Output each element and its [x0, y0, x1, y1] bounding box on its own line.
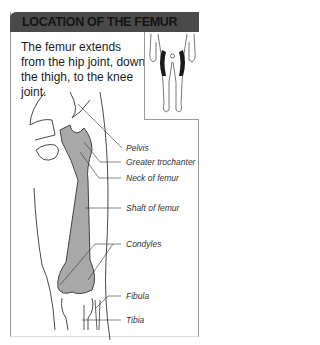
label-shaft-of-femur: Shaft of femur [126, 203, 179, 213]
label-greater-trochanter: Greater trochanter [126, 157, 195, 167]
label-fibula: Fibula [126, 291, 149, 301]
label-condyles: Condyles [126, 239, 161, 249]
label-tibia: Tibia [126, 315, 144, 325]
label-pelvis: Pelvis [126, 143, 149, 153]
label-neck-of-femur: Neck of femur [126, 173, 179, 183]
